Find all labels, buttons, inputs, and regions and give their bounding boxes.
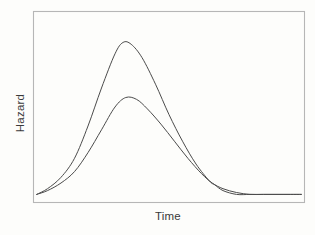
plot-frame [34,12,305,203]
x-axis-label: Time [0,210,315,222]
hazard-plot-area [0,0,315,235]
series-lower-hazard-curve [37,97,302,195]
series-upper-hazard-curve [37,42,302,195]
hazard-chart-figure: Hazard Time [0,0,315,235]
y-axis-label: Hazard [14,93,26,133]
